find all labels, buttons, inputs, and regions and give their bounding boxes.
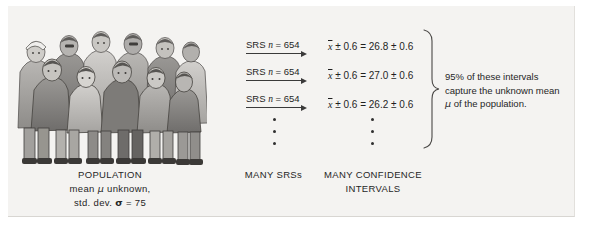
ci-margin-3: ± 0.6 <box>391 99 413 110</box>
srs-arrow-head-2 <box>301 78 307 84</box>
samples-caption: MANY SRSs <box>221 169 326 180</box>
srs-arrow-line-1 <box>246 53 302 54</box>
srs-arrow-head-1 <box>301 51 307 57</box>
ellipsis-dot <box>273 130 276 133</box>
figure-panel: POPULATION mean μ unknown, std. dev. σ =… <box>8 6 575 217</box>
srs-arrow-head-3 <box>301 105 307 111</box>
ci-lhs-margin-1: ± 0.6 <box>335 41 357 52</box>
ellipsis-dot <box>371 142 374 145</box>
srs-prefix-2: SRS <box>246 66 268 77</box>
srs-prefix-3: SRS <box>246 93 268 104</box>
conclusion-line3: μ of the population. <box>445 97 575 111</box>
ci-margin-1: ± 0.6 <box>391 41 413 52</box>
ci-lhs-margin-2: ± 0.6 <box>335 70 357 81</box>
ci-center-1: 26.8 <box>369 41 388 52</box>
conclusion-note: 95% of these intervals capture the unkno… <box>445 70 575 111</box>
population-caption-line3: std. dev. σ = 75 <box>30 197 190 208</box>
ci-center-2: 27.0 <box>369 70 388 81</box>
confidence-interval-1: x ± 0.6 = 26.8 ± 0.6 <box>328 41 413 52</box>
population-caption-line2: mean μ unknown, <box>30 183 190 194</box>
confidence-interval-3: x ± 0.6 = 26.2 ± 0.6 <box>328 99 413 110</box>
conclusion-line2: capture the unknown mean <box>445 84 575 98</box>
right-curly-brace <box>418 28 442 154</box>
crowd-of-people-illustration <box>12 16 207 166</box>
ci-center-3: 26.2 <box>369 99 388 110</box>
srs-suffix-3: = 654 <box>273 93 300 104</box>
ellipsis-dot <box>273 142 276 145</box>
srs-label-1: SRS n = 654 <box>246 39 300 50</box>
sigma-symbol: σ <box>115 197 123 208</box>
srs-ellipsis-dots <box>273 118 276 154</box>
xbar-symbol-3: x <box>328 99 332 110</box>
confidence-interval-2: x ± 0.6 = 27.0 ± 0.6 <box>328 70 413 81</box>
population-mean-suffix: unknown, <box>104 183 150 194</box>
xbar-symbol-1: x <box>328 41 332 52</box>
srs-suffix-2: = 654 <box>273 66 300 77</box>
population-mean-prefix: mean <box>69 183 97 194</box>
srs-arrow-line-3 <box>246 107 302 108</box>
intervals-caption-line2: INTERVALS <box>313 183 433 194</box>
ci-equals-2: = <box>360 70 366 81</box>
srs-arrow-line-2 <box>246 80 302 81</box>
ellipsis-dot <box>371 118 374 121</box>
ci-equals-3: = <box>360 99 366 110</box>
ci-equals-1: = <box>360 41 366 52</box>
srs-label-2: SRS n = 654 <box>246 66 300 77</box>
population-sd-prefix: std. dev. <box>74 197 115 208</box>
ellipsis-dot <box>273 118 276 121</box>
srs-label-3: SRS n = 654 <box>246 93 300 104</box>
xbar-symbol-2: x <box>328 70 332 81</box>
ci-margin-2: ± 0.6 <box>391 70 413 81</box>
srs-suffix-1: = 654 <box>273 39 300 50</box>
ellipsis-dot <box>371 130 374 133</box>
conclusion-line1: 95% of these intervals <box>445 70 575 84</box>
srs-prefix-1: SRS <box>246 39 268 50</box>
intervals-caption-line1: MANY CONFIDENCE <box>313 169 433 180</box>
confidence-interval-diagram: POPULATION mean μ unknown, std. dev. σ =… <box>0 0 589 231</box>
intervals-ellipsis-dots <box>371 118 374 154</box>
population-sd-suffix: = 75 <box>123 197 146 208</box>
conclusion-line3-suffix: of the population. <box>451 98 527 109</box>
ci-lhs-margin-3: ± 0.6 <box>335 99 357 110</box>
population-caption-line1: POPULATION <box>30 169 190 180</box>
